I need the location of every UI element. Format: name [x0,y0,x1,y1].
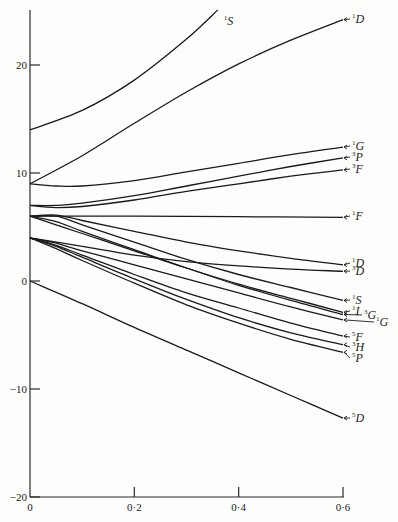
term-label-text: 3G [364,308,377,322]
term-letter: S [227,14,233,28]
term-label-text: 1F [352,209,364,223]
series-line [30,147,343,186]
y-tick-label: −20 [10,491,28,503]
term-letter: D [355,12,365,26]
term-label-text: 1S [224,14,234,28]
series-line [30,216,343,217]
term-letter: D [355,264,365,278]
arrowhead-icon [344,343,347,347]
x-tick-label: 0·4 [231,501,246,513]
term-label-text: 5P [352,351,364,365]
x-ticks: 00·20·40·6 [27,487,351,513]
y-tick-label: 20 [16,59,28,71]
term-label: 3D [344,264,365,278]
term-label: 1G [344,315,389,329]
y-tick-label: 0 [22,275,28,287]
term-label: 3F [344,162,364,176]
term-label: 1F [344,209,364,223]
term-label: 5D [344,411,365,425]
y-tick-label: 10 [16,167,28,179]
term-label-text: 1I [352,304,361,318]
term-letter: G [380,315,389,329]
term-label: 1D [344,12,365,26]
x-tick-label: 0 [27,501,33,513]
term-labels: 1S1D1G3P3F1F1D3D1S1I3G1G5F3H5P5D [224,12,389,425]
series-line [30,158,343,206]
series-line [30,170,343,208]
term-label-text: 1G [376,315,389,329]
series-line [30,238,343,320]
x-tick-label: 0·6 [336,501,351,513]
term-letter: F [355,209,364,223]
term-letter: P [355,351,364,365]
series-line [30,216,343,312]
y-ticks: 20100−10−20 [10,59,40,503]
arrowhead-icon [344,350,347,354]
term-letter: D [355,411,365,425]
series-line [30,238,343,336]
term-label: 5P [344,350,364,365]
series-line [30,10,218,130]
term-label-text: 1D [352,12,365,26]
curves [30,10,343,418]
x-tick-label: 0·2 [127,501,142,513]
series-line [30,20,343,184]
series-line [30,238,343,345]
term-letter: F [355,162,364,176]
term-label-text: 5D [352,411,365,425]
y-tick-label: −10 [10,383,28,395]
label-arrow [344,314,362,315]
term-label-text: 3D [352,264,365,278]
term-label: 1S [224,14,234,28]
term-energy-chart: 20100−10−20 00·20·40·6 1S1D1G3P3F1F1D3D1… [0,0,398,522]
term-label-text: 3F [352,162,364,176]
